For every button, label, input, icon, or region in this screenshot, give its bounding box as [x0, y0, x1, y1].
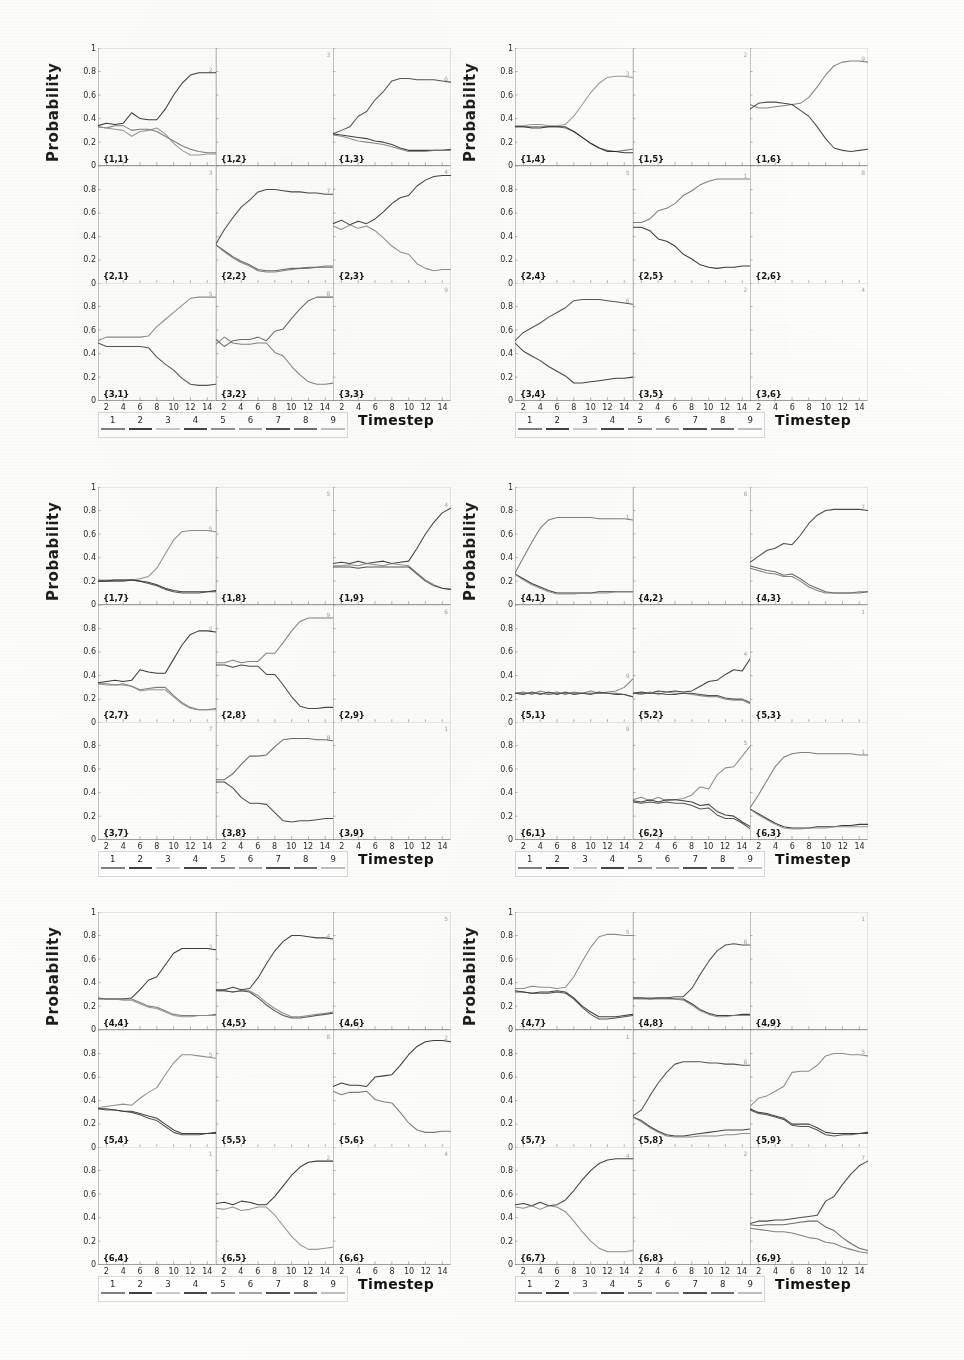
legend-entry[interactable]: 9 — [748, 415, 753, 425]
legend-entry[interactable]: 1 — [527, 415, 532, 425]
legend-entry[interactable]: 7 — [692, 1279, 697, 1289]
subplot-cell[interactable]: 6{5,8} — [633, 1030, 751, 1148]
subplot-cell[interactable]: 5{3,1} — [98, 283, 216, 401]
legend-entry[interactable]: 3 — [165, 1279, 170, 1289]
subplot-cell[interactable]: 5{4,6} — [333, 912, 451, 1030]
subplot-cell[interactable]: 5{4,7} — [515, 912, 633, 1030]
subplot-cell[interactable]: 7{4,3} — [750, 487, 868, 605]
subplot-cell[interactable]: 9{3,3} — [333, 283, 451, 401]
legend-entry[interactable]: 4 — [193, 854, 198, 864]
legend-entry[interactable]: 4 — [610, 1279, 615, 1289]
legend-entry[interactable]: 5 — [220, 1279, 225, 1289]
subplot-cell[interactable]: 8{3,8} — [216, 722, 334, 840]
legend-entry[interactable]: 5 — [220, 415, 225, 425]
subplot-cell[interactable]: 6{2,9} — [333, 605, 451, 723]
subplot-cell[interactable]: 4{2,3} — [333, 166, 451, 284]
subplot-cell[interactable]: 6{1,3} — [333, 48, 451, 166]
legend[interactable]: 123456789 — [515, 851, 765, 877]
legend[interactable]: 123456789 — [515, 412, 765, 438]
legend-entry[interactable]: 5 — [220, 854, 225, 864]
legend-entry[interactable]: 3 — [582, 415, 587, 425]
legend-entry[interactable]: 1 — [110, 415, 115, 425]
legend-entry[interactable]: 2 — [555, 1279, 560, 1289]
legend-entry[interactable]: 6 — [248, 415, 253, 425]
subplot-cell[interactable]: 7{3,7} — [98, 722, 216, 840]
legend-entry[interactable]: 8 — [303, 854, 308, 864]
legend-entry[interactable]: 2 — [138, 415, 143, 425]
subplot-cell[interactable]: 6{4,2} — [633, 487, 751, 605]
subplot-cell[interactable]: 8{5,5} — [216, 1030, 334, 1148]
subplot-cell[interactable]: 1{5,3} — [750, 605, 868, 723]
subplot-cell[interactable]: 2{3,5} — [633, 283, 751, 401]
subplot-cell[interactable]: 5{1,8} — [216, 487, 334, 605]
legend-entry[interactable]: 4 — [193, 1279, 198, 1289]
legend-entry[interactable]: 9 — [331, 415, 336, 425]
subplot-cell[interactable]: 3{1,2} — [216, 48, 334, 166]
legend-entry[interactable]: 1 — [110, 1279, 115, 1289]
subplot-cell[interactable]: 3{1,4} — [515, 48, 633, 166]
legend[interactable]: 123456789 — [98, 1276, 348, 1302]
subplot-cell[interactable]: 6{4,8} — [633, 912, 751, 1030]
subplot-cell[interactable]: 3{2,1} — [98, 166, 216, 284]
legend-entry[interactable]: 1 — [527, 1279, 532, 1289]
legend-entry[interactable]: 3 — [165, 415, 170, 425]
subplot-cell[interactable]: 2{1,5} — [633, 48, 751, 166]
subplot-cell[interactable]: 7{2,2} — [216, 166, 334, 284]
subplot-cell[interactable]: 4{3,6} — [750, 283, 868, 401]
subplot-cell[interactable]: 1{6,4} — [98, 1147, 216, 1265]
subplot-cell[interactable]: 1{3,9} — [333, 722, 451, 840]
legend-entry[interactable]: 6 — [665, 415, 670, 425]
legend-entry[interactable]: 4 — [193, 415, 198, 425]
legend-entry[interactable]: 7 — [275, 1279, 280, 1289]
legend-entry[interactable]: 5 — [637, 415, 642, 425]
legend-entry[interactable]: 2 — [138, 854, 143, 864]
legend-entry[interactable]: 9 — [748, 854, 753, 864]
subplot-cell[interactable]: 2{1,1} — [98, 48, 216, 166]
legend-entry[interactable]: 6 — [248, 1279, 253, 1289]
subplot-cell[interactable]: 4{5,2} — [633, 605, 751, 723]
subplot-cell[interactable]: 2{6,5} — [216, 1147, 334, 1265]
legend-entry[interactable]: 6 — [248, 854, 253, 864]
subplot-cell[interactable]: 6{3,4} — [515, 283, 633, 401]
subplot-cell[interactable]: 5{2,4} — [515, 166, 633, 284]
legend-entry[interactable]: 1 — [110, 854, 115, 864]
legend-entry[interactable]: 9 — [748, 1279, 753, 1289]
subplot-cell[interactable]: 4{4,5} — [216, 912, 334, 1030]
legend-entry[interactable]: 2 — [555, 415, 560, 425]
legend-entry[interactable]: 4 — [610, 415, 615, 425]
subplot-cell[interactable]: 2{5,6} — [333, 1030, 451, 1148]
legend-entry[interactable]: 3 — [582, 854, 587, 864]
subplot-cell[interactable]: 5{6,2} — [633, 722, 751, 840]
legend-entry[interactable]: 9 — [331, 854, 336, 864]
legend-entry[interactable]: 1 — [527, 854, 532, 864]
legend-entry[interactable]: 8 — [303, 1279, 308, 1289]
legend-entry[interactable]: 5 — [637, 1279, 642, 1289]
subplot-cell[interactable]: 1{4,9} — [750, 912, 868, 1030]
legend-entry[interactable]: 7 — [275, 415, 280, 425]
legend-entry[interactable]: 8 — [303, 415, 308, 425]
legend-entry[interactable]: 9 — [331, 1279, 336, 1289]
subplot-cell[interactable]: 4{6,6} — [333, 1147, 451, 1265]
legend-entry[interactable]: 7 — [692, 415, 697, 425]
subplot-cell[interactable]: 4{1,9} — [333, 487, 451, 605]
subplot-cell[interactable]: 1{6,3} — [750, 722, 868, 840]
legend-entry[interactable]: 8 — [720, 854, 725, 864]
subplot-cell[interactable]: 7{6,9} — [750, 1147, 868, 1265]
subplot-cell[interactable]: 5{5,9} — [750, 1030, 868, 1148]
subplot-cell[interactable]: 1{4,1} — [515, 487, 633, 605]
subplot-cell[interactable]: 9{1,6} — [750, 48, 868, 166]
legend-entry[interactable]: 6 — [665, 1279, 670, 1289]
legend-entry[interactable]: 8 — [720, 1279, 725, 1289]
subplot-cell[interactable]: 2{6,8} — [633, 1147, 751, 1265]
legend-entry[interactable]: 2 — [555, 854, 560, 864]
subplot-cell[interactable]: 9{2,8} — [216, 605, 334, 723]
subplot-cell[interactable]: 2{4,4} — [98, 912, 216, 1030]
subplot-cell[interactable]: 8{3,2} — [216, 283, 334, 401]
subplot-cell[interactable]: 1{2,5} — [633, 166, 751, 284]
subplot-cell[interactable]: 4{6,7} — [515, 1147, 633, 1265]
subplot-cell[interactable]: 5{5,4} — [98, 1030, 216, 1148]
legend-entry[interactable]: 8 — [720, 415, 725, 425]
legend-entry[interactable]: 2 — [138, 1279, 143, 1289]
subplot-cell[interactable]: 8{2,6} — [750, 166, 868, 284]
subplot-cell[interactable]: 9{6,1} — [515, 722, 633, 840]
